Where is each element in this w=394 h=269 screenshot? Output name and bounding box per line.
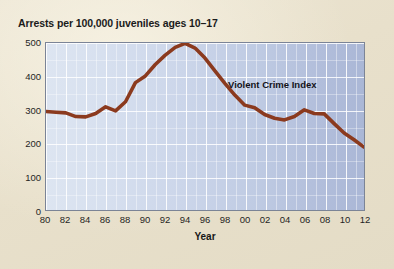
x-tick-02: 02 (260, 214, 271, 225)
y-tick-100: 100 (9, 172, 41, 183)
x-tick-94: 94 (180, 214, 191, 225)
x-tick-92: 92 (160, 214, 171, 225)
x-tick-10: 10 (340, 214, 351, 225)
x-tick-84: 84 (80, 214, 91, 225)
x-tick-96: 96 (200, 214, 211, 225)
x-tick-08: 08 (320, 214, 331, 225)
chart-title: Arrests per 100,000 juveniles ages 10–17 (18, 17, 218, 29)
y-tick-400: 400 (9, 70, 41, 81)
x-tick-80: 80 (40, 214, 51, 225)
y-tick-500: 500 (9, 37, 41, 48)
series-line-layer (46, 43, 364, 211)
x-axis-title: Year (45, 231, 365, 242)
x-tick-00: 00 (240, 214, 251, 225)
violent-crime-index-line (46, 43, 364, 147)
y-tick-300: 300 (9, 104, 41, 115)
y-axis-tick-labels: 0100200300400500 (4, 42, 41, 211)
y-tick-0: 0 (9, 206, 41, 217)
x-tick-86: 86 (100, 214, 111, 225)
x-tick-04: 04 (280, 214, 291, 225)
x-tick-82: 82 (60, 214, 71, 225)
series-annotation-label: Violent Crime Index (228, 79, 317, 90)
x-tick-12: 12 (360, 214, 371, 225)
x-axis-tick-labels: 8082848688909294969800020406081012 (45, 214, 365, 228)
x-tick-06: 06 (300, 214, 311, 225)
y-tick-200: 200 (9, 138, 41, 149)
chart-figure: Arrests per 100,000 juveniles ages 10–17… (0, 0, 394, 269)
x-tick-88: 88 (120, 214, 131, 225)
plot-area (45, 42, 365, 211)
x-tick-98: 98 (220, 214, 231, 225)
x-tick-90: 90 (140, 214, 151, 225)
